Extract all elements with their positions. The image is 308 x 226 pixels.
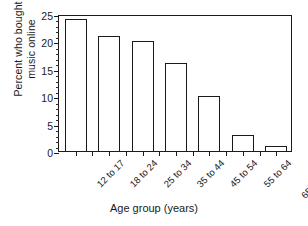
y-axis-minor-tick — [56, 104, 59, 105]
x-axis-category-label: 35 to 44 — [195, 158, 226, 189]
y-axis-minor-tick — [56, 54, 59, 55]
x-axis-tick — [126, 151, 127, 156]
x-axis-tick — [76, 151, 77, 156]
bar — [98, 36, 120, 151]
y-axis-minor-tick — [56, 21, 59, 22]
y-axis-minor-tick — [56, 87, 59, 88]
x-axis-tick — [209, 151, 210, 156]
y-axis-tick-label: 15 — [23, 66, 53, 77]
y-axis-minor-tick — [56, 60, 59, 61]
x-axis-tick — [92, 151, 93, 156]
y-axis-minor-tick — [56, 137, 59, 138]
x-axis-category-label: 12 to 17 — [95, 158, 126, 189]
x-axis-tick — [243, 151, 244, 156]
x-axis-tick — [143, 151, 144, 156]
y-axis-minor-tick — [56, 109, 59, 110]
x-axis-tick — [276, 151, 277, 156]
y-axis-minor-tick — [56, 76, 59, 77]
y-axis-minor-tick — [56, 142, 59, 143]
y-axis-tick-label: 0 — [23, 148, 53, 159]
y-axis-tick — [54, 71, 59, 72]
x-axis-category-label: 18 to 24 — [128, 158, 159, 189]
y-axis-tick-label: 5 — [23, 121, 53, 132]
bar-chart-figure: Percent who bought music online 05101520… — [0, 0, 308, 226]
plot-area: 0510152025 — [58, 15, 292, 152]
y-axis-minor-tick — [56, 27, 59, 28]
y-axis-minor-tick — [56, 148, 59, 149]
y-axis-tick — [54, 126, 59, 127]
x-axis-category-label: 25 to 34 — [162, 158, 193, 189]
y-axis-tick — [54, 43, 59, 44]
plot-inner — [59, 16, 291, 151]
bar — [232, 135, 254, 151]
y-axis-minor-tick — [56, 120, 59, 121]
y-axis-tick — [54, 98, 59, 99]
x-axis-tick — [226, 151, 227, 156]
bar — [132, 41, 154, 151]
x-axis-tick — [260, 151, 261, 156]
y-axis-minor-tick — [56, 131, 59, 132]
x-axis-tick — [193, 151, 194, 156]
x-axis-category-label: 55 to 64 — [262, 158, 293, 189]
bar — [65, 19, 87, 151]
y-axis-minor-tick — [56, 32, 59, 33]
x-axis-tick — [159, 151, 160, 156]
x-axis-tick — [176, 151, 177, 156]
x-axis-category-label: 45 to 54 — [228, 158, 259, 189]
y-axis-tick — [54, 16, 59, 17]
x-axis-tick — [109, 151, 110, 156]
y-axis-minor-tick — [56, 115, 59, 116]
x-axis-category-label: 65 and over — [300, 158, 308, 201]
y-axis-minor-tick — [56, 65, 59, 66]
y-axis-tick-label: 20 — [23, 38, 53, 49]
bar — [165, 63, 187, 151]
x-axis-title: Age group (years) — [0, 202, 308, 214]
y-axis-minor-tick — [56, 82, 59, 83]
y-axis-tick-label: 25 — [23, 11, 53, 22]
bar — [198, 96, 220, 151]
y-axis-minor-tick — [56, 38, 59, 39]
y-axis-minor-tick — [56, 49, 59, 50]
y-axis-minor-tick — [56, 93, 59, 94]
y-axis-tick — [54, 153, 59, 154]
y-axis-tick-label: 10 — [23, 93, 53, 104]
